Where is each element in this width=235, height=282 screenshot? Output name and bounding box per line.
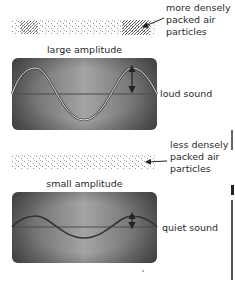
sparse-label-line-3: particles [170, 163, 228, 175]
right-edge-strip [231, 130, 234, 280]
dense-label-line-1: more densely [166, 2, 231, 14]
dense-label-line-3: particles [166, 26, 231, 38]
large-amplitude-panel [12, 58, 157, 130]
loud-sound-label: loud sound [160, 88, 212, 100]
dense-particles-label: more densely packed air particles [166, 2, 231, 38]
sparse-particles-band [12, 155, 155, 170]
small-amplitude-caption: small amplitude [12, 178, 157, 189]
dense-label-line-2: packed air [166, 14, 231, 26]
sparse-particles-label: less densely packed air particles [170, 139, 228, 175]
sparse-label-line-2: packed air [170, 151, 228, 163]
quiet-sound-label: quiet sound [162, 222, 218, 234]
sparse-label-line-1: less densely [170, 139, 228, 151]
dense-particles-band [12, 20, 155, 35]
large-amplitude-caption: large amplitude [12, 44, 157, 55]
stray-dot [142, 270, 144, 272]
small-amplitude-panel [12, 192, 157, 263]
